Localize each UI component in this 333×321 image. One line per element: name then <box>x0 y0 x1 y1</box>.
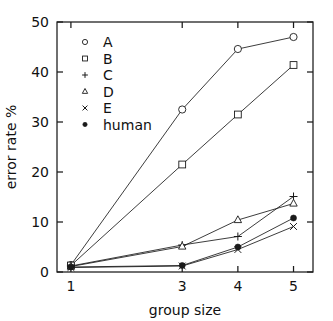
data-point-marker <box>291 215 297 221</box>
y-axis-tick-label: 40 <box>31 64 49 80</box>
legend-label: D <box>103 84 114 100</box>
legend-label: human <box>103 117 152 133</box>
legend-marker-cross <box>83 106 88 111</box>
data-point-marker <box>234 233 242 241</box>
legend-label: B <box>103 51 113 67</box>
data-point-marker <box>290 33 297 40</box>
y-axis-title: error rate % <box>3 105 19 190</box>
y-axis-tick-label: 50 <box>31 14 49 30</box>
series-a <box>67 33 297 268</box>
data-point-marker <box>290 223 297 230</box>
legend-item-c: C <box>82 67 113 83</box>
data-point-marker <box>290 62 297 69</box>
x-axis-tick-label: 1 <box>66 278 75 294</box>
data-point-marker <box>68 264 74 270</box>
data-point-marker <box>234 111 241 118</box>
legend-label: A <box>103 34 113 50</box>
legend-item-d: D <box>82 84 113 100</box>
data-point-marker <box>179 106 186 113</box>
legend-marker-open-circle <box>82 39 87 44</box>
series-line <box>71 197 294 267</box>
series-b <box>68 62 297 269</box>
x-axis-title: group size <box>149 302 221 318</box>
legend-item-e: E <box>83 100 112 116</box>
chart-figure: ABCDEhuman 010203040501345group sizeerro… <box>0 0 333 321</box>
x-axis-tick-label: 5 <box>289 278 298 294</box>
chart-legend: ABCDEhuman <box>82 34 152 133</box>
legend-item-a: A <box>82 34 113 50</box>
legend-item-b: B <box>83 51 113 67</box>
legend-marker-plus <box>82 72 88 78</box>
plot-series <box>67 33 298 271</box>
x-axis-tick-label: 4 <box>233 278 242 294</box>
legend-marker-open-square <box>83 56 88 61</box>
data-point-marker <box>179 263 185 269</box>
error-rate-line-chart: ABCDEhuman 010203040501345group sizeerro… <box>0 0 333 321</box>
legend-marker-open-triangle <box>82 88 87 93</box>
x-axis-tick-label: 3 <box>178 278 187 294</box>
data-point-marker <box>235 244 241 250</box>
y-axis-tick-label: 20 <box>31 164 49 180</box>
legend-label: C <box>103 67 113 83</box>
y-axis-tick-label: 0 <box>40 264 49 280</box>
data-point-marker <box>290 199 297 206</box>
y-axis-tick-label: 30 <box>31 114 49 130</box>
legend-marker-filled-circle <box>83 122 87 126</box>
series-c <box>67 193 298 271</box>
data-point-marker <box>179 161 186 168</box>
legend-item-human: human <box>83 117 152 133</box>
y-axis-tick-label: 10 <box>31 214 49 230</box>
data-point-marker <box>234 45 241 52</box>
legend-label: E <box>103 100 112 116</box>
